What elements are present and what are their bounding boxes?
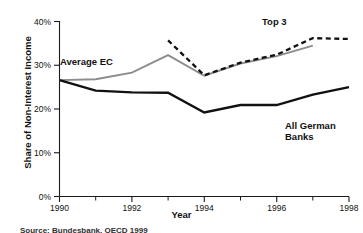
data-series-layer [60, 38, 350, 112]
y-tick-label-40: 40% [34, 17, 51, 27]
series-label-all-german-banks-line2: Banks [285, 131, 314, 142]
y-tick-label-0: 0% [39, 192, 52, 202]
chart-footnote: Source: Bundesbank, OECD 1999 [20, 226, 148, 233]
series-label-average-ec: Average EC [60, 56, 113, 67]
x-axis-ticks-major [60, 197, 350, 203]
chart-plot-area: 0% 10% 20% 30% 40% 1990 1992 1994 1996 1… [0, 0, 363, 233]
series-line-all-german-banks [60, 80, 350, 112]
y-tick-label-20: 20% [34, 104, 51, 114]
y-axis-ticks [54, 22, 60, 197]
x-axis-title: Year [0, 209, 363, 220]
series-label-all-german-banks: All German Banks [285, 120, 336, 142]
y-tick-label-10: 10% [34, 148, 51, 158]
series-label-top3: Top 3 [262, 16, 287, 27]
y-axis-title: Share of Non-Interest Income [22, 18, 33, 188]
y-tick-label-30: 30% [34, 60, 51, 70]
series-label-all-german-banks-line1: All German [285, 120, 336, 131]
chart-figure: 0% 10% 20% 30% 40% 1990 1992 1994 1996 1… [0, 0, 363, 233]
